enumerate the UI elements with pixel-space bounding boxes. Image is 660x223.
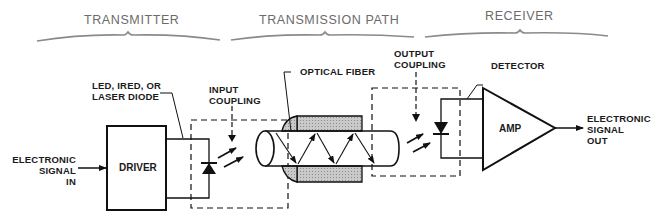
detector-label: DETECTOR [491, 60, 545, 71]
section-transmission-path: TRANSMISSION PATH [259, 13, 399, 27]
driver-label: DRIVER [119, 162, 157, 173]
diagram-graphics [0, 0, 660, 223]
output-coupling-label: OUTPUT COUPLING [394, 48, 446, 70]
section-transmitter: TRANSMITTER [84, 13, 180, 27]
light-ray-path [276, 133, 374, 164]
optical-fiber-label: OPTICAL FIBER [300, 66, 375, 77]
brace-transmission-path [231, 32, 414, 40]
driver-led-wire [166, 139, 209, 198]
detector-amp-wire [441, 99, 483, 158]
output-signal-label: ELECTRONIC SIGNAL OUT [587, 113, 651, 146]
brace-transmitter [37, 32, 220, 41]
source-label: LED, IRED, OR LASER DIODE [92, 80, 161, 102]
input-coupling-label: INPUT COUPLING [209, 84, 261, 106]
led-diode-icon [201, 163, 217, 174]
photodetector-icon [433, 122, 449, 134]
section-receiver: RECEIVER [485, 9, 554, 23]
fiber-collar [282, 116, 362, 182]
optical-fiber [256, 131, 399, 166]
section-braces [37, 30, 608, 41]
input-signal-label: ELECTRONIC SIGNAL IN [12, 154, 76, 187]
output-coupling-region [372, 88, 460, 176]
fiber-optic-link-diagram: TRANSMITTER TRANSMISSION PATH RECEIVER E… [0, 0, 660, 223]
brace-receiver [425, 30, 608, 37]
amp-label: AMP [499, 123, 521, 134]
